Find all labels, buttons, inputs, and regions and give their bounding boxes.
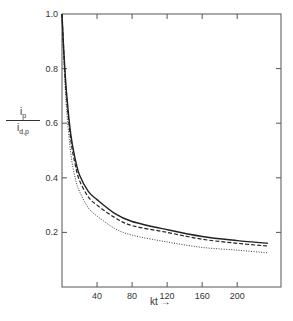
curve-solid	[62, 14, 268, 243]
y-tick-label: 0.2	[45, 227, 58, 237]
x-tick-label: 80	[127, 291, 137, 301]
x-axis-label: kt →	[150, 296, 171, 307]
x-tick-label: 160	[195, 291, 210, 301]
arrow-right-icon: →	[161, 296, 171, 307]
curve-dashed	[62, 14, 268, 246]
y-tick-label: 0.4	[45, 173, 58, 183]
x-tick-label: 40	[92, 291, 102, 301]
chart: 40801201602000.20.40.60.81.0	[0, 0, 293, 321]
curve-dotted	[62, 14, 268, 253]
x-tick-label: 200	[230, 291, 245, 301]
y-label-numerator: ip	[6, 106, 40, 121]
y-label-denominator: id,p	[6, 121, 40, 135]
curves	[62, 14, 268, 253]
y-tick-label: 1.0	[45, 9, 58, 19]
y-axis-label: ip id,p	[6, 106, 40, 135]
plot-frame	[62, 14, 281, 287]
tick-labels: 40801201602000.20.40.60.81.0	[45, 9, 244, 301]
y-tick-label: 0.8	[45, 64, 58, 74]
axis-ticks	[62, 14, 281, 287]
y-tick-label: 0.6	[45, 118, 58, 128]
